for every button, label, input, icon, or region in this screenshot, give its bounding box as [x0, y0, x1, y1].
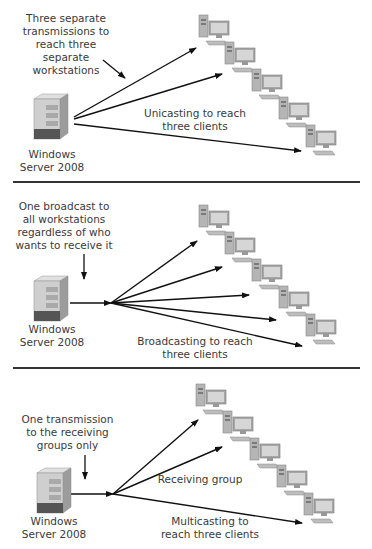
multicast-caption: Multicasting to reach three clients	[150, 515, 270, 541]
server-icon	[30, 275, 70, 323]
server-label: Windows Server 2008	[12, 148, 92, 174]
broadcast-annotation: One broadcast to all workstations regard…	[14, 200, 114, 252]
server-icon	[30, 93, 70, 141]
unicast-annotation: Three separate transmissions to reach th…	[16, 12, 116, 77]
workstation-icon	[304, 311, 340, 347]
broadcast-panel: One broadcast to all workstations regard…	[0, 183, 372, 368]
workstation-icon	[302, 490, 338, 526]
unicast-caption: Unicasting to reach three clients	[140, 107, 250, 133]
server-label: Windows Server 2008	[14, 515, 94, 541]
receiving-group-label: Receiving group	[150, 473, 250, 486]
multicast-panel: One transmission to the receiving groups…	[0, 369, 372, 549]
workstation-icon	[304, 122, 340, 158]
server-label: Windows Server 2008	[12, 323, 92, 349]
unicast-panel: Three separate transmissions to reach th…	[0, 0, 372, 182]
broadcast-caption: Broadcasting to reach three clients	[130, 335, 260, 361]
server-icon	[33, 467, 73, 515]
multicast-annotation: One transmission to the receiving groups…	[20, 413, 115, 452]
